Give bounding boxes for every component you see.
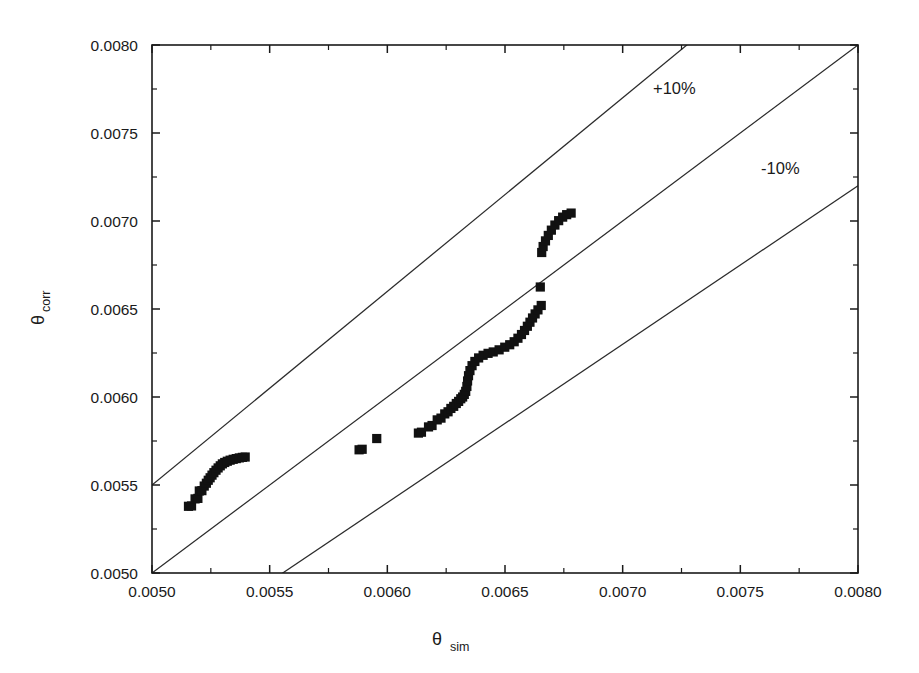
data-point — [358, 445, 367, 454]
x-axis-title-subscript: sim — [450, 640, 469, 654]
x-axis-title-main: θ — [432, 629, 442, 649]
y-axis-title-main: θ — [28, 315, 48, 325]
plus-ten-percent-label: +10% — [653, 79, 696, 97]
minus-ten-percent-label: -10% — [761, 159, 800, 177]
x-tick-label: 0.0065 — [481, 583, 528, 600]
y-tick-label: 0.0075 — [91, 125, 138, 142]
data-point — [537, 301, 546, 310]
data-point — [536, 282, 545, 291]
x-tick-label: 0.0070 — [599, 583, 647, 600]
y-axis-title-subscript: corr — [39, 290, 53, 312]
y-tick-label: 0.0060 — [91, 389, 139, 406]
y-tick-label: 0.0065 — [91, 301, 138, 318]
data-point — [567, 208, 576, 217]
y-tick-label: 0.0055 — [91, 477, 138, 494]
x-tick-label: 0.0060 — [364, 583, 412, 600]
x-tick-label: 0.0075 — [717, 583, 764, 600]
y-tick-label: 0.0080 — [91, 37, 139, 54]
x-tick-label: 0.0050 — [128, 583, 176, 600]
y-tick-label: 0.0050 — [91, 565, 139, 582]
x-tick-label: 0.0080 — [834, 583, 882, 600]
y-tick-label: 0.0070 — [91, 213, 139, 230]
data-point — [241, 452, 250, 461]
scatter-plot: 0.00500.00550.00600.00650.00700.00750.00… — [0, 0, 919, 673]
data-point — [372, 434, 381, 443]
x-tick-label: 0.0055 — [246, 583, 293, 600]
figure-container: 0.00500.00550.00600.00650.00700.00750.00… — [0, 0, 919, 673]
